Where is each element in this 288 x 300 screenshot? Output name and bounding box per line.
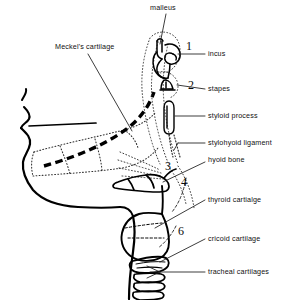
label-incus: incus bbox=[208, 50, 226, 58]
label-malleus: malleus bbox=[150, 4, 176, 12]
styloid-process-bone bbox=[164, 101, 174, 134]
thyroid-cartilage-shape bbox=[121, 186, 169, 261]
callout-number-1: 1 bbox=[186, 40, 192, 52]
label-meckels-cartilage: Meckel's cartilage bbox=[55, 43, 115, 51]
stapes-bone bbox=[160, 80, 175, 90]
incus-bone bbox=[165, 44, 180, 78]
label-tracheal-cartilages: tracheal cartilages bbox=[208, 268, 269, 276]
leader-meckels bbox=[88, 54, 132, 131]
label-styloid-process: styloid process bbox=[208, 112, 258, 120]
callout-number-3: 3 bbox=[165, 160, 171, 172]
callout-number-2: 2 bbox=[188, 79, 194, 91]
anatomy-linework bbox=[0, 0, 288, 300]
face-profile bbox=[21, 89, 135, 299]
label-thyroid-cartilage: thyroid cartialge bbox=[208, 196, 261, 204]
diagram-canvas: malleus Meckel's cartilage incus stapes … bbox=[0, 0, 288, 300]
callout-number-6: 6 bbox=[178, 225, 184, 237]
callout-number-4: 4 bbox=[181, 176, 187, 188]
label-stylohyoid-ligament: stylohyoid ligament bbox=[208, 139, 272, 147]
label-cricoid-cartilage: cricoid cartilage bbox=[208, 235, 260, 243]
label-stapes: stapes bbox=[208, 85, 230, 93]
label-hyoid-bone: hyoid bone bbox=[208, 156, 245, 164]
